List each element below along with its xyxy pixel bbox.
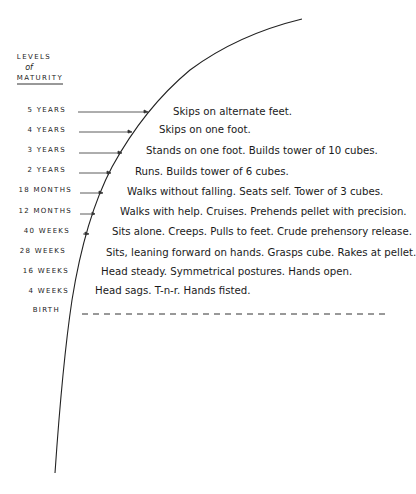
level-label: 5 YEARS: [2, 106, 66, 114]
milestone-description: Sits, leaning forward on hands. Grasps c…: [106, 247, 416, 258]
milestone-description: Head steady. Symmetrical postures. Hands…: [101, 266, 352, 277]
level-label: 28 WEEKS: [2, 247, 66, 255]
milestone-description: Walks with help. Cruises. Prehends pelle…: [120, 206, 407, 217]
level-label-birth: BIRTH: [2, 306, 60, 314]
level-label: 3 YEARS: [2, 146, 66, 154]
header-of: of: [14, 63, 44, 72]
milestone-description: Stands on one foot. Builds tower of 10 c…: [146, 145, 378, 156]
level-label: 4 YEARS: [2, 126, 66, 134]
level-label: 18 MONTHS: [0, 186, 72, 194]
milestone-description: Sits alone. Creeps. Pulls to feet. Crude…: [112, 226, 412, 237]
milestone-description: Walks without falling. Seats self. Tower…: [127, 186, 383, 197]
level-label: 16 WEEKS: [2, 267, 69, 275]
milestone-description: Skips on alternate feet.: [173, 106, 292, 117]
level-label: 2 YEARS: [2, 166, 66, 174]
level-label: 12 MONTHS: [0, 207, 72, 215]
header-maturity: MATURITY: [14, 74, 66, 82]
milestone-description: Head sags. T-n-r. Hands fisted.: [95, 285, 251, 296]
milestone-description: Runs. Builds tower of 6 cubes.: [135, 166, 289, 177]
level-label: 40 WEEKS: [2, 227, 70, 235]
milestone-description: Skips on one foot.: [159, 124, 251, 135]
growth-curve: [55, 19, 302, 473]
header-levels: LEVELS: [14, 53, 54, 61]
level-label: 4 WEEKS: [2, 287, 69, 295]
